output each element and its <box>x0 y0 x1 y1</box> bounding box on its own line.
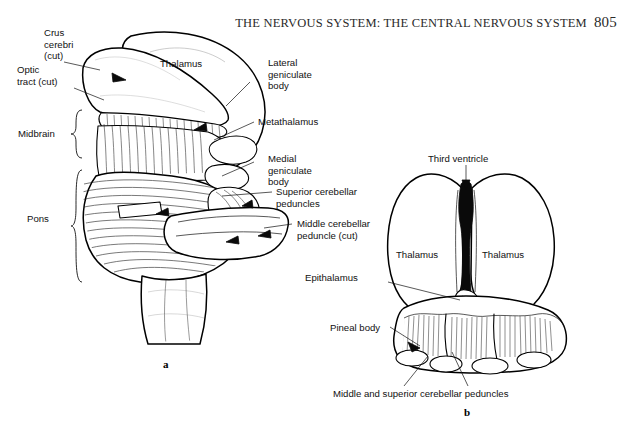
label-thalamus-b-right: Thalamus <box>482 249 524 261</box>
label-medial-geniculate-body: Medial geniculate body <box>268 153 312 188</box>
label-epithalamus: Epithalamus <box>305 272 358 284</box>
label-metathalamus: Metathalamus <box>258 116 318 128</box>
figure-b-caption: b <box>464 406 470 418</box>
medial-geniculate-body-shape <box>205 164 249 190</box>
figure-a-drawing <box>64 32 292 344</box>
left-thalamus-shape <box>388 174 463 315</box>
label-pineal-body: Pineal body <box>330 322 380 334</box>
label-middle-cerebellar-peduncle: Middle cerebellar peduncle (cut) <box>297 218 370 241</box>
label-midbrain: Midbrain <box>18 128 55 140</box>
figure-b-drawing <box>388 165 567 386</box>
label-crus-cerebri: Crus cerebri (cut) <box>44 27 73 62</box>
figure-a-caption: a <box>163 358 169 370</box>
label-thalamus-a: Thalamus <box>160 58 202 70</box>
medulla-stalk-shape <box>141 274 207 344</box>
label-middle-and-superior-cerebellar-peduncles: Middle and superior cerebellar peduncles <box>333 388 508 400</box>
right-thalamus-shape <box>471 174 554 315</box>
label-optic-tract: Optic tract (cut) <box>17 64 58 87</box>
label-superior-cerebellar-peduncles: Superior cerebellar peduncles <box>276 186 357 209</box>
label-lateral-geniculate-body: Lateral geniculate body <box>268 57 312 92</box>
figure-a-braces <box>71 110 82 282</box>
label-pons: Pons <box>27 213 49 225</box>
label-third-ventricle: Third ventricle <box>428 153 488 165</box>
lateral-geniculate-body-shape <box>209 136 257 164</box>
figure-page: THE NERVOUS SYSTEM: THE CENTRAL NERVOUS … <box>0 0 625 427</box>
label-thalamus-b-left: Thalamus <box>396 249 438 261</box>
anatomical-illustration <box>0 0 625 427</box>
